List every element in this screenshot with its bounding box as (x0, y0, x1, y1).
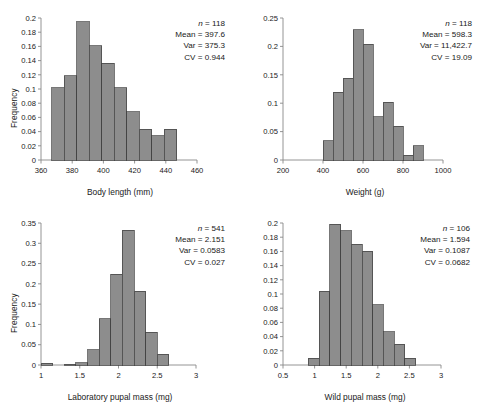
svg-text:0.14: 0.14 (263, 261, 278, 270)
svg-text:1.5: 1.5 (341, 371, 352, 380)
svg-text:0.1: 0.1 (25, 85, 36, 94)
panel-laboratory-pupal-mass: 00.050.10.150.20.250.30.3511.522.53 Freq… (0, 205, 244, 410)
svg-text:0.25: 0.25 (21, 259, 36, 268)
svg-text:3: 3 (194, 371, 198, 380)
svg-text:0.3: 0.3 (25, 239, 36, 248)
svg-text:0.08: 0.08 (263, 304, 278, 313)
svg-text:200: 200 (277, 166, 290, 175)
svg-text:0.2: 0.2 (25, 280, 36, 289)
svg-text:0.04: 0.04 (263, 332, 278, 341)
svg-text:360: 360 (35, 166, 48, 175)
stat-cv: CV = 0.0682 (355, 257, 470, 268)
stat-mean: Mean = 598.3 (350, 29, 472, 40)
stat-var: Var = 0.1087 (355, 245, 470, 256)
svg-text:1: 1 (312, 371, 316, 380)
svg-text:420: 420 (128, 166, 141, 175)
stat-n-symbol: n (443, 224, 448, 233)
svg-text:1.5: 1.5 (74, 371, 85, 380)
svg-text:400: 400 (317, 166, 330, 175)
svg-text:0.16: 0.16 (21, 42, 36, 51)
svg-text:0.02: 0.02 (263, 347, 278, 356)
svg-text:0.2: 0.2 (267, 219, 278, 228)
panel-wild-pupal-mass: 00.020.040.060.080.10.120.140.160.180.20… (245, 205, 489, 410)
stats-annotation-weight: n = 118 Mean = 598.3 Var = 11,422.7 CV =… (350, 18, 472, 63)
stats-annotation-wild-pupal-mass: n = 106 Mean = 1.594 Var = 0.1087 CV = 0… (355, 223, 470, 268)
svg-text:600: 600 (357, 166, 370, 175)
svg-text:0: 0 (274, 361, 278, 370)
svg-text:0.08: 0.08 (21, 99, 36, 108)
stat-cv: CV = 0.944 (110, 52, 225, 63)
x-axis-title-weight: Weight (g) (285, 187, 445, 197)
stats-annotation-laboratory-pupal-mass: n = 541 Mean = 2.151 Var = 0.0583 CV = 0… (112, 223, 225, 268)
x-axis-title-wild-pupal-mass: Wild pupal mass (mg) (275, 392, 455, 402)
stat-n-symbol: n (198, 19, 203, 28)
svg-text:0.25: 0.25 (263, 14, 278, 23)
svg-text:0.15: 0.15 (263, 71, 278, 80)
svg-text:0: 0 (274, 156, 278, 165)
svg-text:2.5: 2.5 (152, 371, 163, 380)
svg-text:460: 460 (191, 166, 204, 175)
stat-n-symbol: n (445, 19, 450, 28)
svg-text:0: 0 (32, 361, 36, 370)
stat-mean: Mean = 2.151 (112, 234, 225, 245)
svg-text:1000: 1000 (435, 166, 452, 175)
panel-body-length: 00.020.040.060.080.10.120.140.160.180.23… (0, 0, 244, 205)
panel-weight: 00.050.10.150.20.252004006008001000 Weig… (245, 0, 489, 205)
stat-mean: Mean = 1.594 (355, 234, 470, 245)
svg-text:2.5: 2.5 (404, 371, 415, 380)
svg-text:440: 440 (159, 166, 172, 175)
stat-n-value: = 541 (205, 224, 225, 233)
svg-text:1: 1 (39, 371, 43, 380)
svg-text:0.1: 0.1 (25, 320, 36, 329)
svg-text:0.2: 0.2 (267, 42, 278, 51)
stat-var: Var = 0.0583 (112, 245, 225, 256)
svg-text:0.14: 0.14 (21, 56, 36, 65)
svg-text:2: 2 (116, 371, 120, 380)
y-axis-title-body-length: Frequency (10, 88, 19, 128)
x-axis-title-laboratory-pupal-mass: Laboratory pupal mass (mg) (25, 392, 215, 402)
stat-n-symbol: n (198, 224, 203, 233)
stat-n-value: = 118 (452, 19, 472, 28)
svg-text:0.04: 0.04 (21, 127, 36, 136)
stat-mean: Mean = 397.6 (110, 29, 225, 40)
svg-text:0.12: 0.12 (263, 276, 278, 285)
y-axis-title-laboratory-pupal-mass: Frequency (10, 293, 19, 333)
svg-text:0.35: 0.35 (21, 219, 36, 228)
svg-text:0.06: 0.06 (21, 113, 36, 122)
svg-text:0: 0 (32, 156, 36, 165)
stat-cv: CV = 19.09 (350, 52, 472, 63)
stat-n-value: = 106 (450, 224, 470, 233)
svg-text:0.1: 0.1 (267, 99, 278, 108)
svg-text:0.12: 0.12 (21, 71, 36, 80)
svg-text:0.1: 0.1 (267, 290, 278, 299)
svg-text:0.05: 0.05 (21, 340, 36, 349)
histogram-figure: 00.020.040.060.080.10.120.140.160.180.23… (0, 0, 489, 410)
x-axis-title-body-length: Body length (mm) (40, 187, 200, 197)
svg-text:0.06: 0.06 (263, 318, 278, 327)
stat-n-value: = 118 (205, 19, 225, 28)
svg-text:0.18: 0.18 (263, 233, 278, 242)
svg-text:0.18: 0.18 (21, 28, 36, 37)
svg-text:0.05: 0.05 (263, 127, 278, 136)
svg-text:0.2: 0.2 (25, 14, 36, 23)
svg-text:800: 800 (397, 166, 410, 175)
svg-text:0.5: 0.5 (278, 371, 289, 380)
svg-text:0.15: 0.15 (21, 300, 36, 309)
svg-text:400: 400 (97, 166, 110, 175)
stat-var: Var = 375.3 (110, 40, 225, 51)
stat-var: Var = 11,422.7 (350, 40, 472, 51)
stat-cv: CV = 0.027 (112, 257, 225, 268)
svg-text:0.02: 0.02 (21, 142, 36, 151)
svg-text:2: 2 (376, 371, 380, 380)
svg-text:380: 380 (66, 166, 79, 175)
svg-text:0.16: 0.16 (263, 247, 278, 256)
svg-text:3: 3 (439, 371, 443, 380)
stats-annotation-body-length: n = 118 Mean = 397.6 Var = 375.3 CV = 0.… (110, 18, 225, 63)
